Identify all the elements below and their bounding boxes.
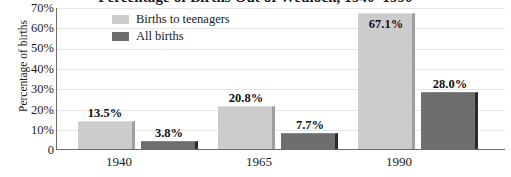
y-tick-label: 30% [16, 83, 54, 96]
bar-label-teenagers-1990: 67.1% [350, 18, 422, 31]
legend-swatch-icon [112, 32, 129, 41]
legend-swatch-icon [112, 15, 129, 24]
y-tick-label: 20% [16, 104, 54, 117]
bar-label-teenagers-1940: 13.5% [70, 107, 140, 120]
gridline [57, 8, 505, 9]
chart-legend: Births to teenagers All births [112, 12, 230, 46]
y-tick-label: 40% [16, 63, 54, 76]
bar-all-1990[interactable] [421, 92, 478, 149]
y-axis-tick-labels: 70% 60% 50% 40% 30% 20% 10% 0 [16, 0, 54, 177]
bar-label-all-1965: 7.7% [275, 119, 345, 132]
x-tick-label-1940: 1940 [84, 154, 154, 170]
y-tick-label: 10% [16, 124, 54, 137]
gridline [57, 49, 505, 50]
bar-label-teenagers-1965: 20.8% [210, 92, 282, 105]
legend-item-births-to-teenagers[interactable]: Births to teenagers [112, 12, 230, 27]
bar-all-1940[interactable] [141, 141, 198, 149]
chart-title: Percentage of Births Out of Wedlock, 194… [0, 0, 511, 6]
y-tick-label: 0 [16, 144, 54, 157]
legend-item-all-births[interactable]: All births [112, 29, 230, 44]
x-tick-label-1990: 1990 [364, 154, 434, 170]
legend-label: All births [136, 29, 184, 44]
bar-label-all-1990: 28.0% [414, 78, 486, 91]
x-axis-line [56, 149, 505, 150]
bar-label-all-1940: 3.8% [134, 127, 204, 140]
bar-teenagers-1940[interactable] [78, 121, 135, 149]
legend-label: Births to teenagers [136, 12, 230, 27]
y-tick-label: 70% [16, 2, 54, 15]
gridline [57, 69, 505, 70]
bar-chart: Percentage of Births Out of Wedlock, 194… [0, 0, 511, 177]
x-tick-label-1965: 1965 [224, 154, 294, 170]
bar-teenagers-1990[interactable] [358, 13, 415, 149]
bar-teenagers-1965[interactable] [218, 106, 275, 149]
y-axis-line [56, 8, 57, 150]
y-tick-label: 60% [16, 22, 54, 35]
bar-all-1965[interactable] [281, 133, 338, 149]
y-tick-label: 50% [16, 42, 54, 55]
